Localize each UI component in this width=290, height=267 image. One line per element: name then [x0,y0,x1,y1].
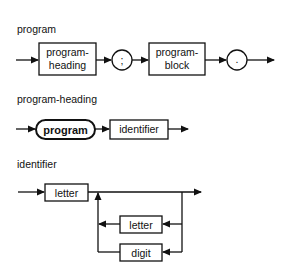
loop-letter-label: letter [129,219,153,231]
semicolon-terminal: ; [112,50,132,70]
program-block-line1: program- [156,46,199,58]
semicolon-label: ; [121,54,124,66]
identifier-box: identifier [110,120,168,139]
identifier-label: identifier [119,123,159,135]
letter-box: letter [45,184,88,201]
program-block-box: program- block [149,43,205,75]
program-heading-line2: heading [49,59,87,71]
letter-label: letter [55,187,79,199]
program-heading-line1: program- [46,46,89,58]
program-block-line2: block [165,59,190,71]
program-diagram: program program- heading ; program- bloc… [16,23,274,75]
program-heading-box: program- heading [39,43,96,75]
program-diagram-title: program [17,23,56,35]
identifier-diagram: identifier letter letter digit [17,158,201,261]
program-heading-diagram: program-heading program identifier [16,93,188,139]
program-keyword-label: program [43,124,88,136]
program-keyword-pill: program [36,120,95,139]
period-label: . [236,53,239,65]
loop-digit-label: digit [131,247,150,259]
period-terminal: . [227,50,247,70]
identifier-diagram-title: identifier [17,158,57,170]
program-heading-diagram-title: program-heading [17,93,97,105]
loop-letter-box: letter [120,216,162,233]
loop-digit-box: digit [120,244,162,261]
syntax-diagram-canvas: program program- heading ; program- bloc… [0,0,290,267]
